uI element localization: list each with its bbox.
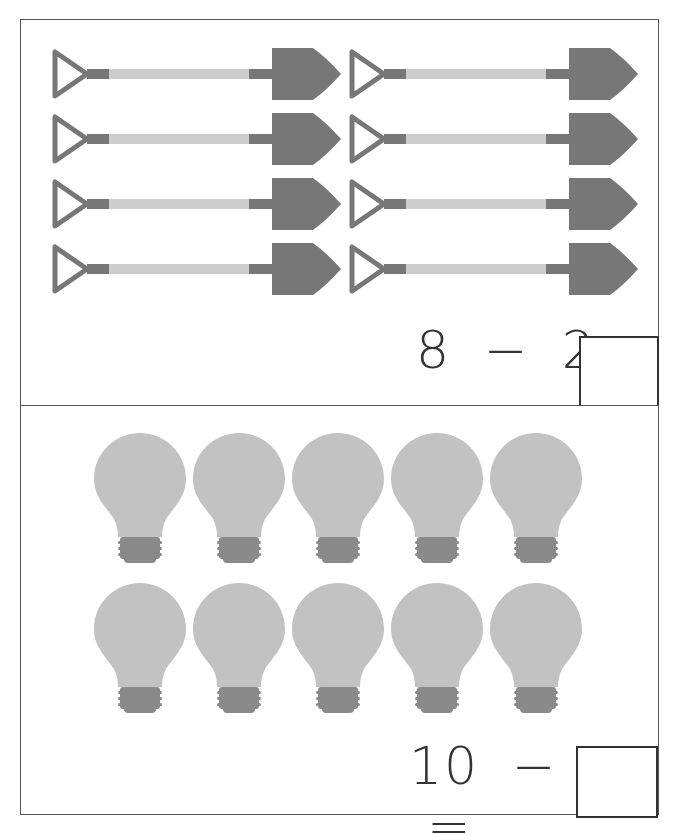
shovel-icon (51, 48, 341, 98)
light-bulb-icon (292, 433, 384, 563)
shovel-icon (348, 243, 638, 293)
problem-card-shovels: 8 − 2 = (20, 19, 659, 407)
light-bulb-icon (94, 583, 186, 713)
light-bulb-icon (193, 583, 285, 713)
shovel-icon (348, 113, 638, 163)
light-bulb-icon (391, 583, 483, 713)
light-bulb-icon (94, 433, 186, 563)
shovel-icon (348, 178, 638, 228)
shovel-icon (51, 178, 341, 228)
light-bulb-icon (391, 433, 483, 563)
minus-sign: − (484, 320, 530, 380)
shovel-icon (51, 243, 341, 293)
equals-sign: = (427, 796, 473, 835)
problem-card-bulbs: 10 − 4 = (20, 405, 659, 815)
answer-box-2[interactable] (576, 746, 658, 818)
shovel-icon (348, 48, 638, 98)
minuend: 8 (416, 320, 451, 380)
light-bulb-icon (490, 433, 582, 563)
minuend: 10 (409, 736, 479, 796)
light-bulb-icon (292, 583, 384, 713)
answer-box-1[interactable] (579, 336, 659, 411)
light-bulb-icon (193, 433, 285, 563)
minus-sign: − (512, 736, 558, 796)
light-bulb-icon (490, 583, 582, 713)
shovel-icon (51, 113, 341, 163)
